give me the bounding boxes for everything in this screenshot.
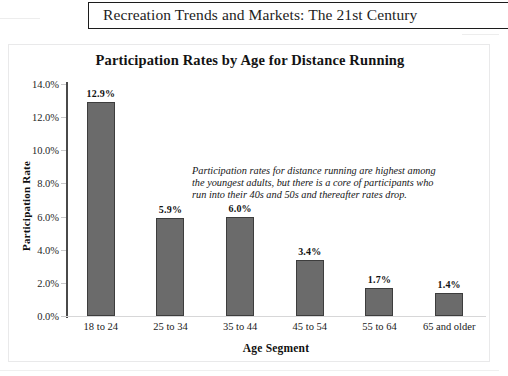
bar[interactable] [365, 288, 393, 316]
y-axis-tick-mark [61, 84, 66, 85]
y-axis-tick-labels: 14.0%12.0%10.0%8.0%6.0%4.0%2.0%0.0% [9, 45, 59, 363]
bar-value-label: 3.4% [298, 246, 321, 257]
bar[interactable] [435, 293, 463, 316]
y-axis-tick-label: 2.0% [13, 277, 59, 288]
y-axis-tick-mark [61, 250, 66, 251]
bar-value-label: 12.9% [87, 88, 116, 99]
x-axis-category-label: 55 to 64 [340, 321, 420, 332]
scan-artifact-bottom [0, 370, 499, 371]
y-axis-tick-mark [61, 217, 66, 218]
y-axis-tick-label: 10.0% [13, 145, 59, 156]
x-axis-category-label: 45 to 54 [270, 321, 350, 332]
page-running-head: Recreation Trends and Markets: The 21st … [88, 2, 508, 29]
x-axis-category-label: 18 to 24 [61, 321, 141, 332]
chart-panel: Participation Rates by Age for Distance … [8, 44, 490, 362]
x-axis-category-label: 65 and older [409, 321, 489, 332]
bar-value-label: 5.9% [159, 204, 182, 215]
y-axis-tick-label: 0.0% [13, 311, 59, 322]
bar-group[interactable]: 12.9% [66, 84, 136, 316]
scan-artifact-left [0, 18, 40, 19]
bar-value-label: 1.7% [368, 274, 391, 285]
y-axis-tick-label: 14.0% [13, 79, 59, 90]
y-axis-tick-label: 6.0% [13, 211, 59, 222]
y-axis-tick-label: 8.0% [13, 178, 59, 189]
y-axis-tick-mark [61, 183, 66, 184]
y-axis-tick-mark [61, 283, 66, 284]
chart-annotation: Participation rates for distance running… [192, 165, 444, 202]
y-axis-tick-label: 12.0% [13, 112, 59, 123]
bar[interactable] [296, 260, 324, 316]
x-axis-category-label: 35 to 44 [200, 321, 280, 332]
y-axis-tick-mark [61, 117, 66, 118]
bar-value-label: 6.0% [229, 203, 252, 214]
chart-title: Participation Rates by Age for Distance … [9, 52, 491, 69]
x-axis-title: Age Segment [66, 342, 486, 354]
x-axis-line [66, 316, 486, 317]
y-axis-tick-label: 4.0% [13, 244, 59, 255]
bar-value-label: 1.4% [438, 279, 461, 290]
x-axis-category-label: 25 to 34 [131, 321, 211, 332]
bar[interactable] [226, 217, 254, 316]
scan-artifact-right [462, 34, 499, 35]
bar[interactable] [156, 218, 184, 316]
y-axis-tick-mark [61, 150, 66, 151]
y-axis-tick-mark [61, 316, 66, 317]
page-header-title: Recreation Trends and Markets: The 21st … [103, 6, 417, 24]
bar[interactable] [87, 102, 115, 316]
